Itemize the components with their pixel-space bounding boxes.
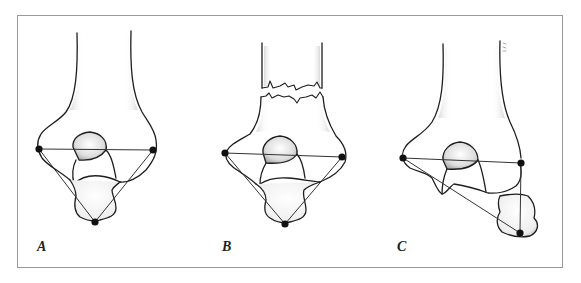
- medial-epicondyle-marker-a: [35, 145, 42, 152]
- olecranon-marker-a: [91, 218, 98, 225]
- lateral-epicondyle-marker-c: [517, 159, 524, 166]
- panel-b-drawing: [221, 43, 346, 228]
- lateral-epicondyle-marker-a: [149, 146, 156, 153]
- panel-label-a: A: [37, 239, 46, 255]
- medial-epicondyle-marker-c: [399, 154, 406, 161]
- bone-illustration: [0, 0, 581, 283]
- olecranon-marker-c: [516, 229, 523, 236]
- medial-epicondyle-marker-b: [221, 149, 228, 156]
- panel-label-c: C: [397, 239, 406, 255]
- panel-a-drawing: [35, 31, 156, 226]
- panel-label-b: B: [222, 239, 231, 255]
- lateral-epicondyle-marker-b: [338, 153, 345, 160]
- panel-c-drawing: [399, 41, 537, 237]
- olecranon-marker-b: [281, 220, 288, 227]
